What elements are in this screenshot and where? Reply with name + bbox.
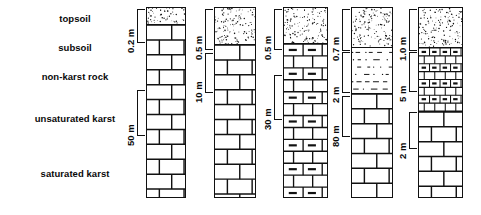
column-3-depth-bar-0 xyxy=(274,9,275,49)
column-1-depth-tick-1-bottom xyxy=(137,135,145,136)
column-5-depth-bar-2 xyxy=(409,112,410,148)
column-5-depth-label-topsoil: 1.0 m xyxy=(397,37,408,61)
column-4-depth-tick-2-bottom xyxy=(342,136,350,137)
column-2-depth-tick-1-top xyxy=(205,53,213,54)
column-3-depth-label-topsoil: 0.5 m xyxy=(262,36,273,60)
column-2-depth-label-topsoil: 0.5 m xyxy=(193,36,204,60)
column-3-depth-tick-1-bottom xyxy=(274,119,282,120)
column-4-depth-tick-2-top xyxy=(342,96,350,97)
column-5-depth-label-non-karst-rock: 5 m xyxy=(397,86,408,102)
column-3-layer-unsaturated-karst xyxy=(284,43,327,198)
column-1-depth-bar-0 xyxy=(137,9,138,42)
column-4-depth-bar-0 xyxy=(342,9,343,50)
column-3-depth-tick-0-bottom xyxy=(274,49,282,50)
legend-label-saturated-karst: saturated karst xyxy=(41,168,110,179)
column-1-depth-label-topsoil: 0.2 m xyxy=(125,29,136,53)
column-5-depth-tick-0-top xyxy=(409,9,417,10)
column-4-depth-bar-1 xyxy=(342,52,343,92)
column-2-depth-tick-0-bottom xyxy=(205,49,213,50)
column-1-depth-tick-0-bottom xyxy=(137,42,145,43)
column-4-layer-unsaturated-karst xyxy=(352,93,392,198)
column-3-layer-topsoil xyxy=(284,8,327,43)
column-5-depth-tick-1-bottom xyxy=(409,91,417,92)
column-1 xyxy=(146,7,186,198)
column-4 xyxy=(351,7,393,198)
column-5-depth-tick-2-bottom xyxy=(409,148,417,149)
legend-label-non-karst-rock: non-karst rock xyxy=(42,71,109,82)
column-5 xyxy=(418,7,463,198)
column-4-layer-topsoil xyxy=(352,8,392,47)
column-2-depth-tick-0-top xyxy=(205,9,213,10)
column-1-layer-unsaturated-karst xyxy=(147,24,185,198)
column-5-layer-topsoil xyxy=(419,8,462,47)
column-5-depth-label-unsaturated-karst: 2 m xyxy=(397,143,408,159)
column-3-depth-bar-1 xyxy=(274,75,275,119)
column-4-depth-label-topsoil: 0.7 m xyxy=(330,37,341,61)
column-4-depth-tick-0-bottom xyxy=(342,50,350,51)
column-3-depth-label-unsaturated-karst: 30 m xyxy=(262,108,273,130)
column-4-depth-bar-2 xyxy=(342,96,343,136)
column-2-depth-bar-1 xyxy=(205,53,206,92)
column-5-depth-tick-1-top xyxy=(409,52,417,53)
column-5-layer-unsaturated-karst xyxy=(419,111,462,198)
column-4-depth-tick-1-bottom xyxy=(342,92,350,93)
column-2-depth-bar-0 xyxy=(205,9,206,49)
column-2-layer-unsaturated-karst xyxy=(215,44,255,198)
column-1-depth-tick-0-top xyxy=(137,9,145,10)
column-3-depth-tick-1-top xyxy=(274,75,282,76)
column-3 xyxy=(283,7,328,198)
column-4-depth-tick-0-top xyxy=(342,9,350,10)
column-2 xyxy=(214,7,256,198)
legend-label-subsoil: subsoil xyxy=(58,42,92,53)
column-4-layer-subsoil xyxy=(352,47,392,93)
column-5-layer-non-karst-rock xyxy=(419,47,462,111)
legend-label-topsoil: topsoil xyxy=(59,13,91,24)
column-5-depth-tick-2-top xyxy=(409,112,417,113)
column-3-depth-tick-0-top xyxy=(274,9,282,10)
column-1-depth-label-unsaturated-karst: 50 m xyxy=(125,124,136,146)
column-4-depth-tick-1-top xyxy=(342,52,350,53)
column-2-depth-label-unsaturated-karst: 10 m xyxy=(193,81,204,103)
column-5-depth-tick-0-bottom xyxy=(409,50,417,51)
column-4-depth-label-unsaturated-karst: 80 m xyxy=(330,125,341,147)
column-2-layer-topsoil xyxy=(215,8,255,44)
column-1-depth-tick-1-top xyxy=(137,90,145,91)
column-5-depth-bar-1 xyxy=(409,52,410,91)
column-2-depth-tick-1-bottom xyxy=(205,92,213,93)
legend-label-unsaturated-karst: unsaturated karst xyxy=(35,113,116,124)
column-1-layer-topsoil xyxy=(147,8,185,24)
geological-profile-figure: topsoilsubsoilnon-karst rockunsaturated … xyxy=(0,0,481,215)
column-4-depth-label-subsoil: 2 m xyxy=(330,87,341,103)
column-5-depth-bar-0 xyxy=(409,9,410,50)
column-1-depth-bar-1 xyxy=(137,90,138,135)
